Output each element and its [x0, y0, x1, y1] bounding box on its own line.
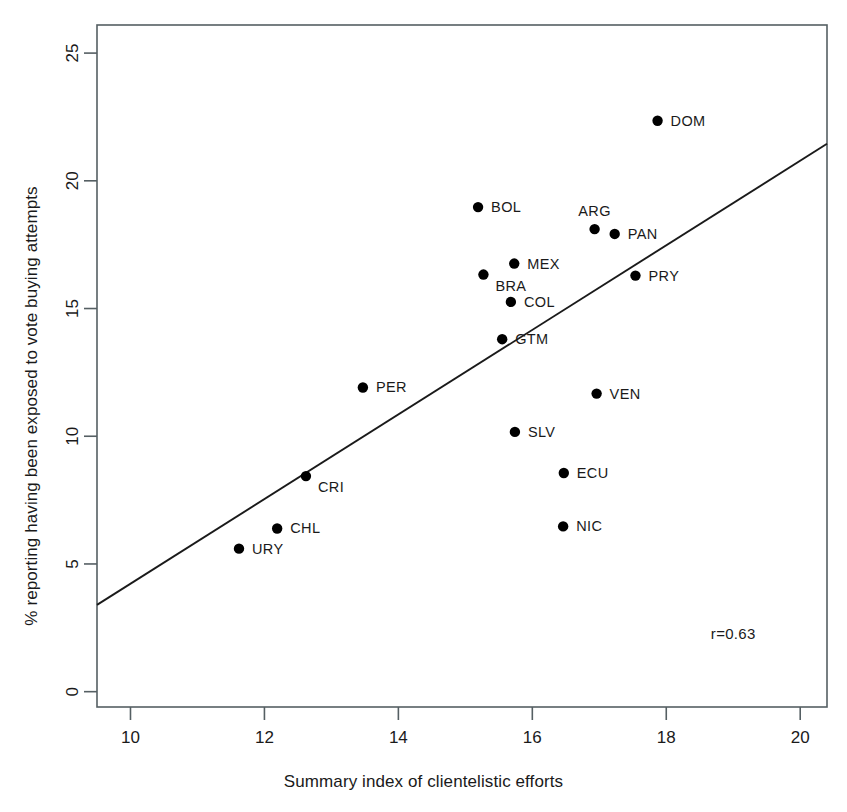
y-tick-label: 15 [64, 299, 83, 318]
point-label-mex: MEX [527, 256, 560, 272]
data-point-nic [558, 521, 568, 531]
point-label-col: COL [524, 294, 555, 310]
y-axis-title: % reporting having been exposed to vote … [22, 0, 46, 812]
data-point-ecu [559, 468, 569, 478]
plot-canvas: 101214161820 0510152025 DOMBOLARGPANMEXB… [0, 0, 847, 812]
y-tick-label: 10 [64, 427, 83, 446]
y-tick-label: 20 [64, 171, 83, 190]
y-tick-label: 0 [64, 687, 83, 696]
point-label-nic: NIC [576, 518, 602, 534]
point-label-slv: SLV [528, 424, 556, 440]
x-tick-label: 16 [523, 728, 542, 747]
data-point-bol [473, 202, 483, 212]
x-tick-label: 10 [121, 728, 140, 747]
data-point-pan [609, 229, 619, 239]
point-label-bol: BOL [491, 199, 521, 215]
x-tick-label: 14 [389, 728, 408, 747]
data-point-gtm [497, 334, 507, 344]
point-label-ury: URY [252, 541, 284, 557]
x-axis-ticks: 101214161820 [121, 707, 810, 747]
data-point-cri [301, 471, 311, 481]
point-label-arg: ARG [578, 203, 611, 219]
y-axis-ticks: 0510152025 [64, 44, 98, 697]
data-point-slv [510, 427, 520, 437]
plot-frame [97, 25, 827, 707]
data-point-mex [509, 258, 519, 268]
point-label-ven: VEN [610, 386, 641, 402]
data-point-ury [234, 543, 244, 553]
point-label-gtm: GTM [515, 331, 548, 347]
annotations-group: r=0.63 [711, 625, 756, 642]
point-label-pry: PRY [648, 268, 679, 284]
correlation-annotation: r=0.63 [711, 625, 756, 642]
point-label-dom: DOM [671, 113, 706, 129]
point-label-pan: PAN [628, 226, 658, 242]
point-label-cri: CRI [318, 479, 344, 495]
point-label-per: PER [376, 379, 407, 395]
data-point-per [358, 382, 368, 392]
x-tick-label: 18 [657, 728, 676, 747]
data-point-bra [478, 269, 488, 279]
regression-line-segment [97, 144, 827, 605]
data-points-group: DOMBOLARGPANMEXBRAPRYCOLGTMPERVENSLVECUC… [234, 113, 706, 557]
data-point-col [506, 297, 516, 307]
point-label-chl: CHL [290, 520, 320, 536]
x-axis-title: Summary index of clientelistic efforts [0, 772, 847, 792]
y-tick-label: 5 [64, 559, 83, 568]
data-point-arg [589, 224, 599, 234]
data-point-chl [272, 523, 282, 533]
data-point-ven [591, 388, 601, 398]
regression-line [97, 144, 827, 605]
x-tick-label: 12 [255, 728, 274, 747]
point-label-ecu: ECU [577, 465, 609, 481]
scatter-plot-figure: 101214161820 0510152025 DOMBOLARGPANMEXB… [0, 0, 847, 812]
point-label-bra: BRA [495, 278, 526, 294]
data-point-dom [652, 116, 662, 126]
data-point-pry [630, 270, 640, 280]
y-tick-label: 25 [64, 44, 83, 63]
x-tick-label: 20 [791, 728, 810, 747]
